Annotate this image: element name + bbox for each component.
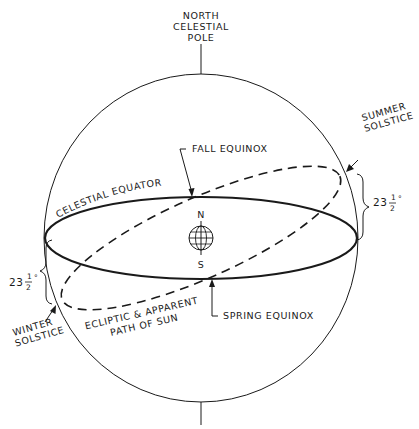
- winter-tilt-angle: 23 1 2 °: [9, 272, 38, 292]
- svg-text:°: °: [398, 194, 402, 203]
- svg-text:1: 1: [27, 272, 32, 281]
- celestial-equator-label: CELESTIAL EQUATOR: [54, 177, 163, 220]
- spring-equinox-label: SPRING EQUINOX: [223, 310, 314, 321]
- pole-label-line2: CELESTIAL: [173, 21, 229, 32]
- summer-solstice-pointer: [346, 160, 358, 172]
- earth-globe-icon: [189, 221, 213, 255]
- fall-equinox-label: FALL EQUINOX: [192, 143, 268, 154]
- fall-equinox-pointer: [180, 149, 195, 197]
- svg-text:23: 23: [9, 276, 24, 288]
- summer-tilt-brace: [357, 174, 369, 240]
- summer-solstice-label-group: SUMMER SOLSTICE: [360, 99, 415, 134]
- earth-south-label: S: [198, 259, 205, 270]
- summer-tilt-angle: 23 1 2 °: [373, 193, 402, 213]
- celestial-sphere-diagram: N S NORTH CELESTIAL POLE CELESTIAL EQUAT…: [0, 0, 419, 429]
- svg-text:2: 2: [26, 283, 31, 292]
- svg-text:23: 23: [373, 196, 388, 208]
- earth-north-label: N: [197, 209, 205, 220]
- spring-equinox-pointer: [209, 279, 218, 316]
- svg-text:°: °: [34, 273, 38, 282]
- svg-text:1: 1: [391, 193, 396, 202]
- pole-label-line3: POLE: [188, 32, 215, 43]
- svg-text:2: 2: [390, 204, 395, 213]
- winter-solstice-label-group: WINTER SOLSTICE: [11, 313, 66, 348]
- pole-label-line1: NORTH: [183, 10, 219, 21]
